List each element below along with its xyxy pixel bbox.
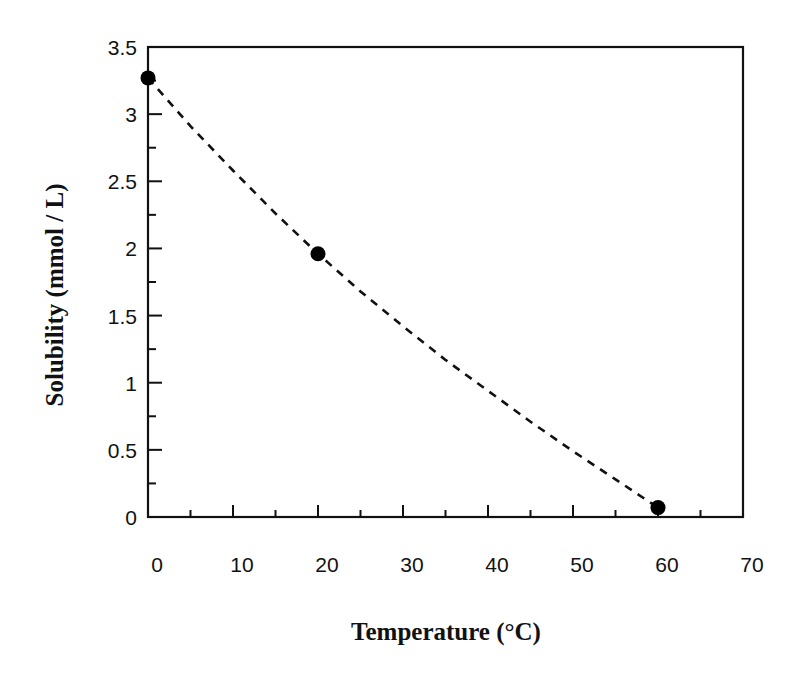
data-points [141,70,666,515]
y-tick-label: 1 [125,372,137,395]
solubility-chart: 010203040506070 00.511.522.533.5 Tempera… [0,0,800,676]
data-point-marker [651,500,666,515]
x-tick-label: 30 [400,553,423,576]
x-tick-label: 20 [315,553,338,576]
x-tick-label: 10 [230,553,253,576]
x-tick-label: 50 [570,553,593,576]
y-tick-label: 1.5 [108,305,137,328]
x-tick-label: 70 [740,553,763,576]
y-tick-label: 3.5 [108,36,137,59]
y-tick-label: 2 [125,237,137,260]
y-tick-label: 3 [125,103,137,126]
x-axis-title: Temperature (°C) [351,618,541,646]
x-tick-label: 40 [485,553,508,576]
y-tick-label: 0.5 [108,439,137,462]
x-tick-label: 60 [655,553,678,576]
dashed-fit-curve [148,78,658,508]
plot-border [148,47,743,517]
x-axis-ticks: 010203040506070 [151,505,764,576]
plot-frame [148,47,743,517]
data-point-marker [141,70,156,85]
y-axis-title: Solubility (mmol / L) [41,184,69,407]
y-tick-label: 0 [125,506,137,529]
x-tick-label: 0 [151,553,163,576]
data-point-marker [311,246,326,261]
y-tick-label: 2.5 [108,170,137,193]
y-axis-ticks: 00.511.522.533.5 [108,36,162,529]
fit-curve-path [148,78,658,508]
